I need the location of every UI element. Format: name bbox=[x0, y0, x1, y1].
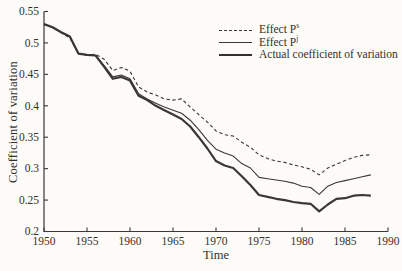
y-axis-title: Coefficient of variation bbox=[5, 44, 21, 200]
x-axis-tick-label: 1990 bbox=[377, 235, 400, 247]
dashed-line-sample-icon bbox=[219, 30, 252, 31]
x-axis-tick-label: 1965 bbox=[162, 235, 185, 247]
x-axis-tick-label: 1960 bbox=[119, 235, 142, 247]
y-axis-tick-label: 0.5 bbox=[25, 37, 40, 49]
x-axis-tick-label: 1980 bbox=[291, 235, 314, 247]
legend-label: Effect Pj bbox=[259, 37, 298, 49]
x-axis-title: Time bbox=[44, 248, 388, 263]
legend-label-superscript: j bbox=[296, 34, 298, 43]
legend-label: Actual coefficient of variation bbox=[259, 49, 398, 61]
thin-line-sample-icon bbox=[219, 42, 252, 43]
legend-label-text: Effect P bbox=[259, 23, 296, 35]
y-axis-tick-label: 0.25 bbox=[19, 194, 39, 206]
legend-label-text: Actual coefficient of variation bbox=[259, 48, 398, 60]
legend-label: Effect Ps bbox=[259, 24, 299, 36]
y-axis-tick-label: 0.4 bbox=[25, 100, 40, 112]
legend-item-actual-cv: Actual coefficient of variation bbox=[219, 49, 398, 61]
legend: Effect Ps Effect Pj Actual coefficient o… bbox=[219, 24, 398, 61]
y-axis-tick-label: 0.35 bbox=[19, 131, 39, 143]
y-axis-tick-label: 0.45 bbox=[19, 68, 39, 80]
x-axis-tick-label: 1970 bbox=[205, 235, 228, 247]
y-axis-tick-label: 0.3 bbox=[25, 162, 40, 174]
legend-item-effect-ps: Effect Ps bbox=[219, 24, 398, 36]
legend-label-text: Effect P bbox=[259, 36, 296, 48]
legend-item-effect-pj: Effect Pj bbox=[219, 36, 398, 48]
x-axis-tick-label: 1950 bbox=[33, 235, 56, 247]
coefficient-of-variation-chart: 0.20.250.30.350.40.450.50.55195019551960… bbox=[0, 0, 402, 271]
thick-line-sample-icon bbox=[219, 54, 252, 56]
y-axis-tick-label: 0.55 bbox=[19, 5, 39, 17]
x-axis-tick-label: 1985 bbox=[334, 235, 357, 247]
x-axis-tick-label: 1955 bbox=[76, 235, 99, 247]
x-axis-tick-label: 1975 bbox=[248, 235, 271, 247]
legend-label-superscript: s bbox=[296, 22, 299, 31]
